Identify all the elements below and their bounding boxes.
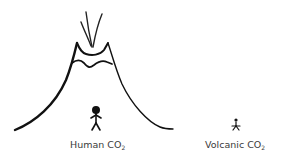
volcanic-co2-text: Volcanic CO [205,139,261,150]
human-co2-label: Human CO2 [70,139,125,151]
volcanic-stick-figure-icon [232,119,240,130]
volcanic-co2-label: Volcanic CO2 [205,139,265,151]
volcanic-co2-subscript: 2 [261,144,265,151]
human-stick-figure-icon [91,107,101,130]
human-co2-text: Human CO [70,139,121,150]
volcano-diagram [0,0,281,161]
smoke-plume-icon [81,12,102,47]
human-co2-subscript: 2 [121,144,125,151]
